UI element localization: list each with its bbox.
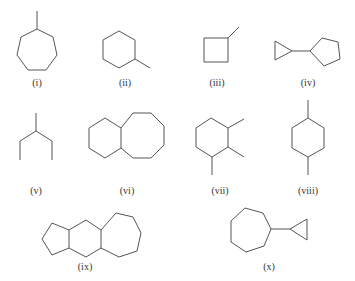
ring-bonds bbox=[196, 118, 228, 157]
structure-bicyclo-6-4-0-dodecane bbox=[89, 113, 164, 158]
ring-bonds bbox=[17, 29, 57, 70]
skeletal-formulas-drawing bbox=[0, 0, 355, 281]
structure-1-4-dimethylcyclohexane bbox=[292, 100, 324, 175]
structure-label-i: (i) bbox=[32, 78, 41, 88]
ring-bonds bbox=[204, 38, 228, 62]
structure-label-ii: (ii) bbox=[119, 78, 131, 88]
structure-methylcycloheptane bbox=[17, 11, 57, 70]
chain-bonds bbox=[228, 27, 239, 38]
structure-3-methylpentane bbox=[20, 113, 52, 160]
hydrocarbon-structures-figure: (i) (ii) (iii) (iv) (v) (vi) (vii) (viii… bbox=[0, 0, 355, 281]
chain-bonds bbox=[101, 213, 141, 257]
structure-label-iv: (iv) bbox=[301, 78, 315, 88]
chain-bonds bbox=[42, 223, 69, 255]
structure-label-vii: (vii) bbox=[211, 186, 228, 196]
structure-label-ix: (ix) bbox=[78, 262, 92, 272]
ring-bonds bbox=[275, 41, 292, 60]
chain-bonds bbox=[228, 119, 244, 128]
structure-label-v: (v) bbox=[30, 186, 42, 196]
ring-bonds bbox=[292, 118, 324, 157]
chain-bonds bbox=[135, 59, 150, 68]
ring-bonds bbox=[231, 208, 271, 252]
ring-bonds bbox=[290, 219, 307, 240]
chain-bonds bbox=[228, 147, 244, 157]
chain-bonds bbox=[121, 113, 164, 158]
structure-label-x: (x) bbox=[263, 262, 275, 272]
ring-bonds bbox=[89, 118, 121, 158]
ring-bonds bbox=[69, 220, 101, 257]
structure-cyclopropylcyclopentane bbox=[275, 38, 340, 66]
structure-methylcyclohexane bbox=[103, 31, 150, 68]
structure-5-6-7-fused-tricyclic-alkane bbox=[42, 213, 141, 257]
structure-label-vi: (vi) bbox=[120, 186, 134, 196]
structure-label-iii: (iii) bbox=[210, 78, 225, 88]
structure-methylcyclobutane bbox=[204, 27, 239, 62]
ring-bonds bbox=[103, 31, 135, 68]
chain-bonds bbox=[20, 131, 52, 160]
structure-1-2-3-trimethylcyclohexane bbox=[196, 118, 244, 175]
structure-cyclopropylcycloheptane bbox=[231, 208, 307, 252]
structure-label-viii: (viii) bbox=[298, 186, 318, 196]
ring-bonds bbox=[310, 38, 340, 66]
